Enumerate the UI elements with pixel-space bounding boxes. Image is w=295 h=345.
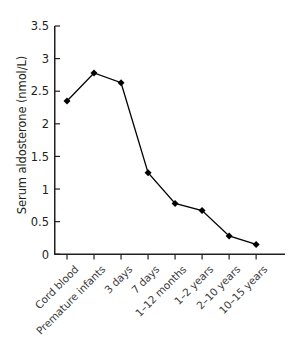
x-axis-ticks xyxy=(67,254,256,259)
y-tick-label-2: 2 xyxy=(9,117,49,131)
data-point-marker xyxy=(253,241,260,248)
chart-canvas xyxy=(54,26,285,255)
data-point-markers xyxy=(64,69,260,248)
y-tick-label-1-5: 1.5 xyxy=(9,150,49,164)
y-tick-label-0-5: 0.5 xyxy=(9,215,49,229)
data-point-marker xyxy=(118,79,125,86)
y-tick-label-3-5: 3.5 xyxy=(9,19,49,33)
plot-area xyxy=(54,26,285,255)
x-tick-label-2: 3 days xyxy=(102,263,135,296)
data-series-line xyxy=(67,73,256,245)
y-tick-label-1: 1 xyxy=(9,183,49,197)
y-tick-label-2-5: 2.5 xyxy=(9,84,49,98)
y-tick-label-3: 3 xyxy=(9,52,49,66)
serum-aldosterone-line-chart: Serum aldosterone (nmol/L) 0 0.5 1 1.5 2… xyxy=(0,0,295,345)
y-axis-ticks xyxy=(55,26,60,254)
y-tick-label-0: 0 xyxy=(9,248,49,262)
